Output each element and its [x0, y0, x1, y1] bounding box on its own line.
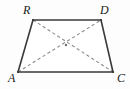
vertex-dot-D: [100, 19, 102, 21]
vertex-dot-R: [32, 19, 34, 21]
vertex-dot-A: [17, 71, 19, 73]
trapezoid-svg: [0, 0, 130, 89]
vertex-label-r: R: [23, 4, 30, 16]
vertex-dot-C: [112, 71, 114, 73]
geometry-figure: A R D C: [0, 0, 130, 89]
vertex-label-a: A: [8, 72, 15, 84]
vertex-label-c: C: [117, 72, 125, 84]
vertex-label-d: D: [100, 4, 109, 16]
diagonal-intersection-dot: [65, 44, 67, 46]
